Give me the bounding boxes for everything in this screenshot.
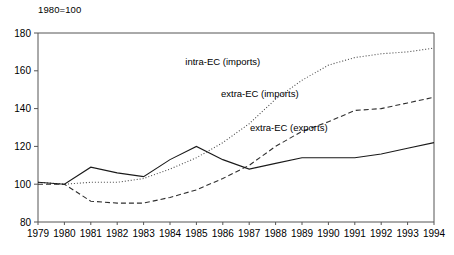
x-tick-label-1994: 1994 xyxy=(423,228,446,239)
series-line-extra-ec-imports xyxy=(38,97,434,203)
y-tick-label-180: 180 xyxy=(14,28,31,39)
line-chart: 8010012014016018019791980198119821983198… xyxy=(0,0,454,255)
x-tick-label-1989: 1989 xyxy=(291,228,314,239)
x-tick-label-1993: 1993 xyxy=(396,228,419,239)
x-tick-label-1980: 1980 xyxy=(53,228,76,239)
x-tick-label-1983: 1983 xyxy=(132,228,155,239)
x-tick-label-1982: 1982 xyxy=(106,228,129,239)
y-tick-label-100: 100 xyxy=(14,179,31,190)
y-tick-label-140: 140 xyxy=(14,103,31,114)
x-tick-label-1984: 1984 xyxy=(159,228,182,239)
x-tick-label-1979: 1979 xyxy=(27,228,50,239)
y-tick-label-80: 80 xyxy=(20,217,32,228)
x-tick-label-1992: 1992 xyxy=(370,228,393,239)
x-tick-label-1985: 1985 xyxy=(185,228,208,239)
series-label-extra-ec-exports: extra-EC (exports) xyxy=(250,122,328,133)
x-tick-label-1981: 1981 xyxy=(80,228,103,239)
x-tick-label-1988: 1988 xyxy=(264,228,287,239)
x-tick-label-1987: 1987 xyxy=(238,228,261,239)
x-tick-label-1991: 1991 xyxy=(344,228,367,239)
series-label-extra-ec-imports: extra-EC (imports) xyxy=(221,88,299,99)
x-tick-label-1990: 1990 xyxy=(317,228,340,239)
chart-figure: 1980=100 8010012014016018019791980198119… xyxy=(0,0,454,255)
x-tick-label-1986: 1986 xyxy=(212,228,235,239)
series-label-intra-ec-imports: intra-EC (imports) xyxy=(185,56,260,67)
y-tick-label-160: 160 xyxy=(14,65,31,76)
series-line-extra-ec-exports xyxy=(38,143,434,185)
y-tick-label-120: 120 xyxy=(14,141,31,152)
